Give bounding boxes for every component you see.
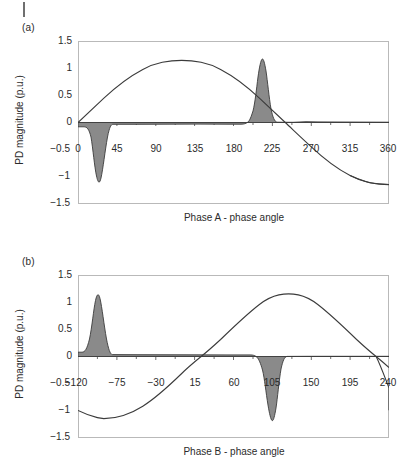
x-tick-label-a-4: 180	[216, 143, 252, 154]
y-tick-label-a-3: 0	[38, 116, 72, 127]
y-tick-label-b-0: 1.5	[38, 269, 72, 280]
x-tick-label-b-4: 60	[216, 377, 252, 388]
x-tick-label-a-7: 315	[332, 143, 368, 154]
x-tick-label-a-6: 270	[293, 143, 329, 154]
x-tick-label-b-6: 150	[293, 377, 329, 388]
x-tick-label-b-0: −120	[58, 377, 94, 388]
plot-area-a	[78, 41, 389, 204]
figure-panel-a: (a) PD magnitude (p.u.)	[0, 0, 412, 234]
x-axis-title-a: Phase A - phase angle	[78, 212, 390, 223]
y-axis-title-b: PD magnitude (p.u.)	[14, 144, 25, 284]
y-tick-label-a-5: −1	[36, 170, 70, 181]
y-tick-label-b-2: 0.5	[38, 323, 72, 334]
figure-panel-b: (b) PD magnitude (p.u.)	[0, 234, 412, 468]
x-tick-label-a-3: 135	[177, 143, 213, 154]
x-tick-label-b-5: 105	[254, 377, 290, 388]
y-axis-title-a: PD magnitude (p.u.)	[14, 0, 25, 50]
y-tick-label-b-1: 1	[38, 296, 72, 307]
y-tick-label-b-5: −1	[36, 404, 70, 415]
x-tick-label-b-7: 195	[332, 377, 368, 388]
x-tick-label-b-8: 240	[370, 377, 406, 388]
plot-svg-b	[78, 275, 389, 438]
x-tick-label-a-0: 0	[60, 143, 96, 154]
plot-svg-a	[78, 41, 389, 204]
x-tick-label-a-1: 45	[99, 143, 135, 154]
x-tick-label-a-5: 225	[254, 143, 290, 154]
y-tick-label-b-3: 0	[38, 350, 72, 361]
y-axis-title-b-text: PD magnitude (p.u.)	[14, 284, 25, 424]
x-tick-label-b-1: −75	[99, 377, 135, 388]
plot-area-b	[78, 275, 389, 438]
y-tick-label-a-0: 1.5	[38, 35, 72, 46]
y-tick-label-b-6: −1.5	[36, 431, 70, 442]
x-tick-label-a-8: 360	[370, 143, 406, 154]
x-tick-label-a-2: 90	[138, 143, 174, 154]
y-tick-label-a-2: 0.5	[38, 89, 72, 100]
x-tick-label-b-3: 15	[177, 377, 213, 388]
y-tick-label-a-1: 1	[38, 62, 72, 73]
x-axis-title-b: Phase B - phase angle	[78, 446, 390, 457]
x-tick-label-b-2: −30	[138, 377, 174, 388]
y-tick-label-a-6: −1.5	[36, 197, 70, 208]
